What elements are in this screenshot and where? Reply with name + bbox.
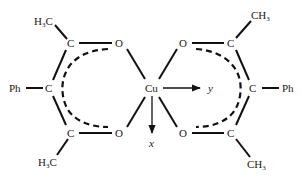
left-bottom-oxygen: O bbox=[115, 127, 123, 139]
right-bottom-methyl-label: CH3 bbox=[247, 158, 266, 172]
left-bottom-o-cu-bond bbox=[127, 97, 145, 127]
left-bottom-methyl-label: H3C bbox=[38, 156, 57, 170]
right-middle-carbon: C bbox=[249, 82, 256, 94]
left-middle-carbon: C bbox=[45, 82, 52, 94]
y-axis-label: y bbox=[207, 82, 213, 94]
copper-atom: Cu bbox=[145, 82, 158, 94]
right-bottom-oxygen: O bbox=[179, 127, 187, 139]
right-top-o-cu-bond bbox=[159, 49, 177, 79]
x-axis-label: x bbox=[148, 137, 154, 149]
left-top-o-cu-bond bbox=[127, 49, 145, 79]
right-mid-c-bottom-c-bond bbox=[236, 96, 249, 125]
left-ligand: H3C C O Ph C C O H3C bbox=[9, 15, 145, 170]
left-substituent-ph: Ph bbox=[9, 82, 21, 94]
right-bottom-methyl-bond bbox=[236, 139, 250, 157]
left-delocalization-arc bbox=[62, 49, 108, 127]
left-top-methyl-bond bbox=[55, 25, 67, 39]
right-bottom-carbon: C bbox=[227, 127, 234, 139]
right-top-carbon: C bbox=[227, 37, 234, 49]
right-top-oxygen: O bbox=[179, 37, 187, 49]
right-substituent-ph: Ph bbox=[282, 82, 294, 94]
copper-complex-diagram: H3C C O Ph C C O H3C Cu y x O C bbox=[0, 0, 302, 180]
left-bottom-methyl-bond bbox=[57, 139, 68, 155]
left-top-methyl-label: H3C bbox=[34, 15, 53, 29]
right-ligand: O C CH3 C Ph O C CH3 bbox=[159, 9, 294, 172]
right-delocalization-arc bbox=[196, 49, 241, 127]
right-bottom-o-cu-bond bbox=[159, 97, 177, 127]
left-top-oxygen: O bbox=[115, 37, 123, 49]
right-top-methyl-label: CH3 bbox=[251, 9, 270, 23]
left-mid-c-bottom-c-bond bbox=[53, 96, 66, 125]
right-top-methyl-bond bbox=[236, 21, 251, 38]
left-bottom-carbon: C bbox=[67, 127, 74, 139]
left-top-carbon: C bbox=[67, 37, 74, 49]
